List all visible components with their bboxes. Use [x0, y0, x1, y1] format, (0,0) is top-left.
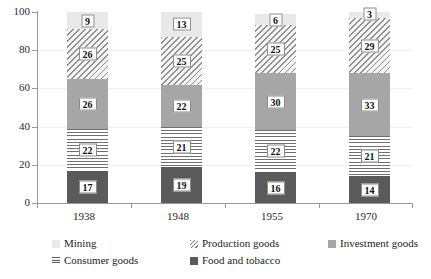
bar-segment-food-1948[interactable]: 19 [161, 167, 202, 203]
legend-item-food-and-tobacco[interactable]: Food and tobacco [190, 253, 280, 267]
y-tick-60 [32, 88, 37, 89]
bar-label-production-1955: 25 [267, 43, 285, 56]
bar-segment-investment-1970[interactable]: 33 [349, 73, 390, 136]
bar-label-mining-1970: 3 [363, 8, 376, 21]
legend-label-consumer-goods: Consumer goods [64, 254, 138, 266]
bar-label-food-1955: 16 [267, 181, 285, 194]
legend-item-consumer-goods[interactable]: Consumer goods [52, 253, 138, 267]
bar-segment-mining-1955[interactable]: 6 [255, 14, 296, 26]
bar-label-consumer-1948: 21 [173, 140, 191, 153]
bar-label-consumer-1970: 21 [361, 150, 379, 163]
x-axis-label-1938: 1938 [54, 210, 114, 222]
y-axis-label-80: 80 [2, 43, 30, 55]
legend-label-food-and-tobacco: Food and tobacco [202, 254, 280, 266]
y-axis-label-60: 60 [2, 81, 30, 93]
bar-segment-investment-1955[interactable]: 30 [255, 73, 296, 130]
bar-label-consumer-1955: 22 [267, 145, 285, 158]
plot-area: 17 22 26 26 9 19 21 22 [38, 12, 412, 203]
y-axis-label-0: 0 [2, 196, 30, 208]
y-axis-label-20: 20 [2, 158, 30, 170]
y-tick-40 [32, 127, 37, 128]
bar-segment-food-1938[interactable]: 17 [67, 171, 108, 204]
legend-label-mining: Mining [64, 237, 96, 249]
bar-segment-investment-1948[interactable]: 22 [161, 85, 202, 127]
legend-item-production-goods[interactable]: Production goods [190, 236, 279, 250]
bar-segment-food-1970[interactable]: 14 [349, 176, 390, 203]
x-tick-4 [412, 204, 413, 208]
bar-label-food-1948: 19 [173, 178, 191, 191]
bar-segment-consumer-1938[interactable]: 22 [67, 129, 108, 171]
x-axis-label-1955: 1955 [242, 210, 302, 222]
bar-label-mining-1938: 9 [81, 14, 94, 27]
legend-item-mining[interactable]: Mining [52, 236, 96, 250]
stacked-bar-chart: 100 80 60 40 20 0 1938 1948 1955 1970 17… [0, 0, 431, 279]
bar-segment-investment-1938[interactable]: 26 [67, 79, 108, 129]
bar-label-consumer-1938: 22 [79, 143, 97, 156]
x-axis-label-1948: 1948 [148, 210, 208, 222]
bar-label-production-1938: 26 [79, 47, 97, 60]
bar-label-mining-1955: 6 [269, 13, 282, 26]
bar-segment-production-1970[interactable]: 29 [349, 18, 390, 73]
bar-label-investment-1970: 33 [361, 98, 379, 111]
y-tick-20 [32, 165, 37, 166]
legend-swatch-food-and-tobacco-icon [190, 257, 198, 265]
bar-segment-production-1955[interactable]: 25 [255, 25, 296, 73]
x-tick-0 [37, 204, 38, 208]
bar-label-production-1948: 25 [173, 54, 191, 67]
x-axis-label-1970: 1970 [336, 210, 396, 222]
legend-item-investment-goods[interactable]: Investment goods [328, 236, 418, 250]
bar-segment-production-1938[interactable]: 26 [67, 29, 108, 79]
bar-1970[interactable]: 14 21 33 29 3 [349, 12, 390, 203]
bar-label-food-1970: 14 [361, 183, 379, 196]
bar-segment-mining-1938[interactable]: 9 [67, 12, 108, 29]
bar-segment-consumer-1948[interactable]: 21 [161, 127, 202, 167]
legend-swatch-mining-icon [52, 240, 60, 248]
legend-swatch-consumer-goods-icon [52, 257, 60, 265]
y-axis-label-40: 40 [2, 120, 30, 132]
bar-label-investment-1948: 22 [173, 99, 191, 112]
bar-label-production-1970: 29 [361, 39, 379, 52]
legend-label-investment-goods: Investment goods [340, 237, 418, 249]
chart-legend: Mining Production goods Investment goods… [38, 236, 428, 272]
bar-label-investment-1955: 30 [267, 95, 285, 108]
bar-label-mining-1948: 13 [173, 18, 191, 31]
x-tick-3 [319, 204, 320, 208]
bar-label-food-1938: 17 [79, 180, 97, 193]
bar-segment-consumer-1970[interactable]: 21 [349, 136, 390, 176]
bar-1938[interactable]: 17 22 26 26 9 [67, 12, 108, 203]
x-tick-1 [131, 204, 132, 208]
y-axis-label-100: 100 [2, 5, 30, 17]
legend-label-production-goods: Production goods [202, 237, 279, 249]
bar-1955[interactable]: 16 22 30 25 6 [255, 12, 296, 203]
y-tick-100 [32, 12, 37, 13]
bar-label-investment-1938: 26 [79, 97, 97, 110]
legend-swatch-investment-goods-icon [328, 240, 336, 248]
bar-1948[interactable]: 19 21 22 25 13 [161, 12, 202, 203]
bar-segment-mining-1948[interactable]: 13 [161, 12, 202, 37]
bar-segment-production-1948[interactable]: 25 [161, 37, 202, 85]
bar-segment-food-1955[interactable]: 16 [255, 172, 296, 203]
legend-swatch-production-goods-icon [190, 240, 198, 248]
bar-segment-consumer-1955[interactable]: 22 [255, 130, 296, 172]
x-tick-2 [225, 204, 226, 208]
y-tick-80 [32, 50, 37, 51]
bar-segment-mining-1970[interactable]: 3 [349, 12, 390, 18]
